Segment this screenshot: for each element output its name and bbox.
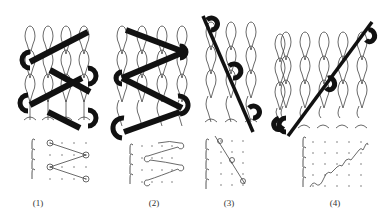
- panel-3: (3): [195, 0, 287, 223]
- lapping-notation: [303, 137, 368, 187]
- lapping-notation: [206, 136, 246, 189]
- panel-label: (1): [18, 198, 58, 208]
- panel-2-diagram: [100, 0, 200, 223]
- panel-label: (4): [315, 198, 355, 208]
- inlay-yarn: [20, 32, 96, 128]
- panel-label: (3): [209, 198, 249, 208]
- panel-1-diagram: [0, 0, 100, 223]
- panel-label: (2): [134, 198, 174, 208]
- panel-3-diagram: [195, 0, 287, 223]
- lapping-notation: [32, 139, 89, 182]
- lapping-notation: [130, 142, 184, 186]
- panel-1: (1): [0, 0, 100, 223]
- panel-4: (4): [280, 0, 387, 223]
- panel-2: (2): [100, 0, 200, 223]
- panel-4-diagram: [280, 0, 387, 223]
